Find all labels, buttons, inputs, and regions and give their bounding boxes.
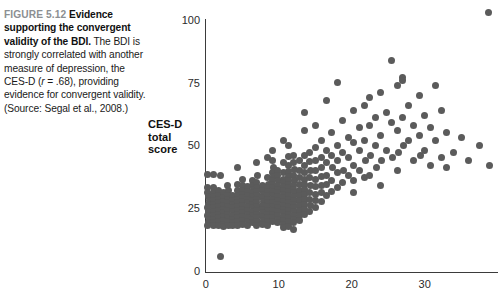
scatter-point <box>323 97 330 104</box>
scatter-point <box>366 122 373 129</box>
scatter-point <box>410 122 417 129</box>
scatter-point <box>361 102 368 109</box>
scatter-point <box>405 137 412 144</box>
scatter-point <box>356 124 363 131</box>
scatter-point <box>438 154 445 161</box>
scatter-point <box>421 112 428 119</box>
scatter-point <box>410 157 417 164</box>
scatter-point <box>366 94 373 101</box>
scatter-point <box>427 162 434 169</box>
scatter-point <box>367 152 374 159</box>
scatter-point <box>285 142 292 149</box>
scatter-point <box>389 154 396 161</box>
scatter-point <box>372 114 379 121</box>
scatter-plot: 0255075100 0102030 CES-Dtotalscore <box>0 0 498 300</box>
scatter-point <box>416 92 423 99</box>
scatter-point <box>388 119 395 126</box>
scatter-point <box>438 107 445 114</box>
scatter-point <box>399 114 406 121</box>
scatter-point <box>366 172 373 179</box>
scatter-point <box>485 9 492 16</box>
scatter-point <box>383 147 390 154</box>
scatter-point <box>296 217 303 224</box>
scatter-point <box>312 204 319 211</box>
scatter-point <box>450 149 457 156</box>
scatter-point <box>395 149 402 156</box>
scatter-point <box>388 57 395 64</box>
scatter-point <box>210 171 217 178</box>
scatter-point <box>394 167 401 174</box>
scatter-point <box>234 164 241 171</box>
scatter-point <box>306 149 313 156</box>
scatter-point <box>217 253 224 260</box>
scatter-point <box>290 226 297 233</box>
scatter-point <box>421 147 428 154</box>
scatter-point <box>458 134 465 141</box>
scatter-point <box>312 144 319 151</box>
scatter-point <box>334 79 341 86</box>
scatter-point <box>301 109 308 116</box>
scatter-point <box>383 109 390 116</box>
scatter-point <box>318 198 325 205</box>
scatter-point <box>339 179 346 186</box>
scatter-point <box>394 127 401 134</box>
scatter-point <box>399 77 406 84</box>
scatter-point <box>432 137 439 144</box>
scatter-point <box>301 127 308 134</box>
scatter-point <box>334 157 341 164</box>
scatter-point <box>269 157 276 164</box>
scatter-point <box>328 129 335 136</box>
scatter-point <box>350 177 357 184</box>
scatter-point <box>476 142 483 149</box>
scatter-point <box>486 162 493 169</box>
scatter-point <box>443 129 450 136</box>
scatter-point <box>339 117 346 124</box>
scatter-points-layer <box>0 0 498 300</box>
scatter-point <box>328 177 335 184</box>
scatter-point <box>377 132 384 139</box>
scatter-point <box>350 139 357 146</box>
scatter-point <box>443 164 450 171</box>
scatter-point <box>350 107 357 114</box>
scatter-point <box>361 137 368 144</box>
scatter-point <box>356 147 363 154</box>
scatter-point <box>345 154 352 161</box>
scatter-point <box>377 182 384 189</box>
scatter-point <box>427 124 434 131</box>
scatter-point <box>377 89 384 96</box>
scatter-point <box>378 157 385 164</box>
scatter-point <box>269 147 276 154</box>
scatter-point <box>405 102 412 109</box>
scatter-point <box>334 142 341 149</box>
scatter-point <box>312 122 319 129</box>
scatter-point <box>254 172 261 179</box>
scatter-point <box>416 132 423 139</box>
scatter-point <box>465 157 472 164</box>
scatter-point <box>318 137 325 144</box>
scatter-point <box>253 159 260 166</box>
scatter-point <box>372 142 379 149</box>
scatter-point <box>432 82 439 89</box>
scatter-point <box>350 189 357 196</box>
scatter-point <box>217 172 224 179</box>
scatter-point <box>373 164 380 171</box>
scatter-point <box>356 167 363 174</box>
